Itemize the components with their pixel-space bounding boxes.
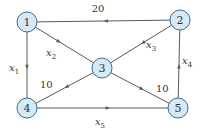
arrowhead-icon xyxy=(25,65,29,70)
edge-label-4-5: x5 xyxy=(95,116,105,130)
node-2: 2 xyxy=(170,10,190,30)
arrowhead-icon xyxy=(65,84,70,88)
node-5: 5 xyxy=(168,98,188,118)
arrowhead-icon xyxy=(56,39,61,43)
edge-label-2-1: 20 xyxy=(92,3,105,14)
edge-label-1-3: x2 xyxy=(46,47,56,61)
node-3: 3 xyxy=(92,58,112,78)
edge-label-1-4: x1 xyxy=(9,62,19,76)
edge-label-2-3: x3 xyxy=(146,39,156,53)
node-label: 3 xyxy=(99,62,106,75)
node-label: 4 xyxy=(24,102,31,115)
arrowhead-icon xyxy=(104,19,109,23)
edge-label-3-4: 10 xyxy=(40,79,53,90)
edge-label-3-5: 10 xyxy=(156,83,169,94)
arrowhead-icon xyxy=(139,86,144,90)
arrowhead-icon xyxy=(177,64,181,69)
node-label: 2 xyxy=(177,14,184,27)
node-1: 1 xyxy=(17,12,37,32)
network-diagram: 20x2x3x11010x4x5 12345 xyxy=(0,0,204,133)
edge-label-5-2: x4 xyxy=(182,55,193,69)
edge-1-3 xyxy=(27,22,102,68)
node-label: 1 xyxy=(24,16,31,29)
arrowhead-icon xyxy=(106,106,111,110)
node-4: 4 xyxy=(17,98,37,118)
node-label: 5 xyxy=(175,102,182,115)
